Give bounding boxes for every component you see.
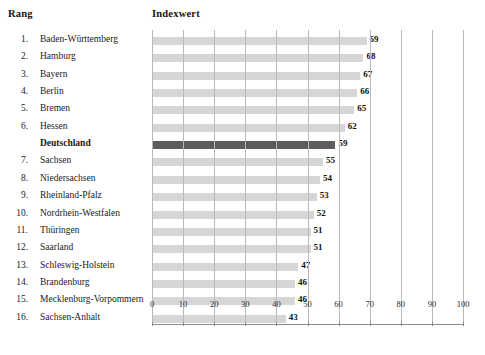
plot-area <box>152 30 463 325</box>
tick-70 <box>370 322 371 326</box>
row-label: Bremen <box>40 103 70 113</box>
xtick-label-90: 90 <box>428 299 437 309</box>
gridline-10 <box>183 30 184 325</box>
row-label: Brandenburg <box>40 277 89 287</box>
row-rank: 12. <box>0 242 28 252</box>
xtick-label-80: 80 <box>397 299 406 309</box>
gridline-90 <box>432 30 433 325</box>
row-rank: 2. <box>0 51 28 61</box>
xtick-label-0: 0 <box>150 299 154 309</box>
gridline-0 <box>152 30 153 325</box>
gridline-20 <box>214 30 215 325</box>
xtick-label-50: 50 <box>303 299 312 309</box>
row-rank: 10. <box>0 208 28 218</box>
xtick-label-60: 60 <box>334 299 343 309</box>
tick-0 <box>152 322 153 326</box>
row-label: Hessen <box>40 121 67 131</box>
row-label: Thüringen <box>40 225 80 235</box>
tick-50 <box>308 322 309 326</box>
row-rank: 14. <box>0 277 28 287</box>
row-label: Hamburg <box>40 51 76 61</box>
row-label: Mecklenburg-Vorpommern <box>40 294 144 304</box>
xtick-label-40: 40 <box>272 299 281 309</box>
row-label: Saarland <box>40 242 73 252</box>
tick-20 <box>214 322 215 326</box>
tick-60 <box>339 322 340 326</box>
row-rank: 11. <box>0 225 28 235</box>
xtick-label-70: 70 <box>365 299 374 309</box>
tick-40 <box>276 322 277 326</box>
row-rank: 15. <box>0 294 28 304</box>
row-rank: 3. <box>0 69 28 79</box>
row-rank: 8. <box>0 173 28 183</box>
row-rank: 1. <box>0 34 28 44</box>
tick-10 <box>183 322 184 326</box>
xtick-label-100: 100 <box>457 299 470 309</box>
column-header-rank: Rang <box>8 8 33 19</box>
row-label: Berlin <box>40 86 64 96</box>
gridline-60 <box>339 30 340 325</box>
row-rank: 16. <box>0 312 28 322</box>
xtick-label-20: 20 <box>210 299 219 309</box>
row-rank: 9. <box>0 190 28 200</box>
row-label: Deutschland <box>40 138 91 148</box>
gridline-30 <box>245 30 246 325</box>
xtick-label-30: 30 <box>241 299 250 309</box>
row-rank: 5. <box>0 103 28 113</box>
row-rank: 4. <box>0 86 28 96</box>
row-rank: 13. <box>0 260 28 270</box>
row-label: Baden-Württemberg <box>40 34 118 44</box>
row-label: Bayern <box>40 69 67 79</box>
row-label: Sachsen-Anhalt <box>40 312 100 322</box>
xtick-label-10: 10 <box>179 299 188 309</box>
gridline-40 <box>276 30 277 325</box>
row-rank: 6. <box>0 121 28 131</box>
row-label: Nordrhein-Westfalen <box>40 208 120 218</box>
tick-30 <box>245 322 246 326</box>
row-label: Rheinland-Pfalz <box>40 190 102 200</box>
row-label: Sachsen <box>40 155 71 165</box>
row-label: Schleswig-Holstein <box>40 260 114 270</box>
column-header-indexwert: Indexwert <box>152 8 200 19</box>
row-rank: 7. <box>0 155 28 165</box>
tick-90 <box>432 322 433 326</box>
gridline-100 <box>463 30 464 325</box>
ranking-bar-chart: Rang Indexwert 1.Baden-Württemberg692.Ha… <box>0 0 485 355</box>
tick-80 <box>401 322 402 326</box>
gridline-50 <box>308 30 309 325</box>
tick-100 <box>463 322 464 326</box>
gridline-70 <box>370 30 371 325</box>
gridline-80 <box>401 30 402 325</box>
row-label: Niedersachsen <box>40 173 95 183</box>
